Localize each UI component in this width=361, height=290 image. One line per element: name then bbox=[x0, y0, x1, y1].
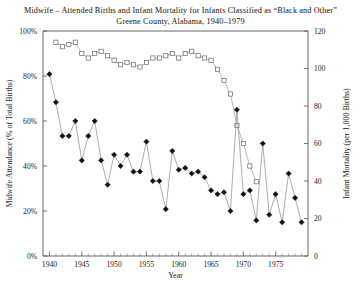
data-point-infant-mortality bbox=[131, 169, 136, 174]
data-point-midwife-attendance bbox=[54, 40, 58, 44]
x-tick-label: 1950 bbox=[107, 260, 122, 269]
data-point-infant-mortality bbox=[150, 178, 155, 183]
data-point-infant-mortality bbox=[170, 148, 175, 153]
x-tick-label: 1940 bbox=[42, 260, 57, 269]
data-point-midwife-attendance bbox=[196, 54, 200, 58]
x-tick-label: 1970 bbox=[236, 260, 251, 269]
data-point-midwife-attendance bbox=[73, 40, 77, 44]
data-point-midwife-attendance bbox=[112, 58, 116, 62]
data-point-infant-mortality bbox=[254, 218, 259, 223]
data-point-midwife-attendance bbox=[248, 164, 252, 168]
data-point-midwife-attendance bbox=[99, 49, 103, 53]
data-point-infant-mortality bbox=[105, 182, 110, 187]
data-point-midwife-attendance bbox=[215, 67, 219, 71]
data-point-infant-mortality bbox=[292, 195, 297, 200]
data-point-midwife-attendance bbox=[164, 54, 168, 58]
y-tick-label-left: 0% bbox=[27, 252, 38, 261]
data-point-midwife-attendance bbox=[183, 51, 187, 55]
y-tick-label-left: 40% bbox=[23, 162, 38, 171]
data-point-midwife-attendance bbox=[67, 42, 71, 46]
y-tick-label-left: 60% bbox=[23, 117, 38, 126]
data-point-infant-mortality bbox=[73, 118, 78, 123]
data-point-infant-mortality bbox=[273, 192, 278, 197]
data-point-midwife-attendance bbox=[138, 65, 142, 69]
data-point-midwife-attendance bbox=[125, 60, 129, 64]
data-point-midwife-attendance bbox=[190, 49, 194, 53]
data-point-midwife-attendance bbox=[86, 56, 90, 60]
data-point-infant-mortality bbox=[280, 220, 285, 225]
x-tick-label: 1975 bbox=[268, 260, 283, 269]
y-tick-label-right: 40 bbox=[314, 177, 322, 186]
plot-frame bbox=[43, 31, 308, 256]
data-point-infant-mortality bbox=[111, 152, 116, 157]
data-point-midwife-attendance bbox=[106, 54, 110, 58]
y-tick-label-right: 120 bbox=[314, 27, 326, 36]
y-tick-label-right: 60 bbox=[314, 139, 322, 148]
chart-canvas: 19401945195019551960196519701975Year0%20… bbox=[0, 0, 361, 290]
x-tick-label: 1955 bbox=[139, 260, 154, 269]
data-point-midwife-attendance bbox=[118, 63, 122, 67]
y-tick-label-left: 80% bbox=[23, 72, 38, 81]
x-tick-label: 1945 bbox=[74, 260, 89, 269]
data-point-midwife-attendance bbox=[131, 63, 135, 67]
data-point-midwife-attendance bbox=[144, 60, 148, 64]
data-point-infant-mortality bbox=[299, 220, 304, 225]
data-point-midwife-attendance bbox=[241, 141, 245, 145]
chart-figure: Midwife – Attended Births and Infant Mor… bbox=[0, 0, 361, 290]
y-tick-label-left: 100% bbox=[19, 27, 37, 36]
data-point-infant-mortality bbox=[267, 212, 272, 217]
data-point-infant-mortality bbox=[157, 178, 162, 183]
data-point-infant-mortality bbox=[53, 100, 58, 105]
data-point-infant-mortality bbox=[86, 133, 91, 138]
y-tick-label-left: 20% bbox=[23, 207, 38, 216]
y-tick-label-right: 0 bbox=[314, 252, 318, 261]
y-tick-label-right: 80 bbox=[314, 102, 322, 111]
data-point-midwife-attendance bbox=[209, 58, 213, 62]
data-point-midwife-attendance bbox=[157, 56, 161, 60]
data-point-infant-mortality bbox=[241, 192, 246, 197]
series-line-infant-mortality bbox=[49, 74, 301, 222]
data-point-infant-mortality bbox=[234, 107, 239, 112]
data-point-midwife-attendance bbox=[177, 56, 181, 60]
data-point-midwife-attendance bbox=[222, 78, 226, 82]
data-point-infant-mortality bbox=[176, 167, 181, 172]
data-point-midwife-attendance bbox=[60, 45, 64, 49]
data-point-midwife-attendance bbox=[202, 56, 206, 60]
data-point-midwife-attendance bbox=[80, 51, 84, 55]
data-point-infant-mortality bbox=[60, 133, 65, 138]
data-point-infant-mortality bbox=[144, 139, 149, 144]
data-point-infant-mortality bbox=[228, 208, 233, 213]
data-point-infant-mortality bbox=[215, 192, 220, 197]
data-point-infant-mortality bbox=[208, 188, 213, 193]
data-point-infant-mortality bbox=[221, 190, 226, 195]
data-point-infant-mortality bbox=[124, 152, 129, 157]
data-point-midwife-attendance bbox=[170, 51, 174, 55]
data-point-infant-mortality bbox=[247, 188, 252, 193]
x-tick-label: 1965 bbox=[203, 260, 218, 269]
data-point-infant-mortality bbox=[79, 158, 84, 163]
y-tick-label-right: 100 bbox=[314, 64, 326, 73]
data-point-infant-mortality bbox=[163, 207, 168, 212]
x-tick-label: 1960 bbox=[171, 260, 186, 269]
data-point-midwife-attendance bbox=[228, 92, 232, 96]
series-line-midwife-attendance bbox=[56, 42, 256, 182]
data-point-infant-mortality bbox=[92, 118, 97, 123]
data-point-infant-mortality bbox=[137, 169, 142, 174]
data-point-infant-mortality bbox=[99, 158, 104, 163]
data-point-infant-mortality bbox=[47, 72, 52, 77]
data-point-midwife-attendance bbox=[254, 180, 258, 184]
data-point-midwife-attendance bbox=[93, 51, 97, 55]
x-axis-title: Year bbox=[168, 271, 183, 280]
data-point-midwife-attendance bbox=[151, 56, 155, 60]
y-axis-title-left: Midwife Attendance (% of Total Births) bbox=[5, 79, 14, 207]
data-point-infant-mortality bbox=[66, 133, 71, 138]
data-point-infant-mortality bbox=[260, 141, 265, 146]
data-point-infant-mortality bbox=[118, 163, 123, 168]
y-tick-label-right: 20 bbox=[314, 214, 322, 223]
y-axis-title-right: Infant Mortality (per 1,000 Births) bbox=[342, 88, 351, 199]
data-point-infant-mortality bbox=[286, 171, 291, 176]
